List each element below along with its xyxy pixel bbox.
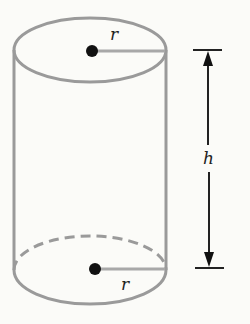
bottom-radius-label: r [121, 274, 130, 294]
top-radius-label: r [110, 24, 119, 44]
bottom-ellipse-hidden-edge [14, 236, 166, 270]
arrow-down-icon [204, 252, 214, 267]
bottom-center-dot [89, 263, 101, 275]
top-center-dot [86, 45, 98, 57]
bottom-ellipse-visible-edge [14, 270, 166, 304]
arrow-up-icon [203, 51, 213, 66]
cylinder-diagram: r r h [0, 0, 250, 324]
height-label: h [203, 148, 214, 168]
